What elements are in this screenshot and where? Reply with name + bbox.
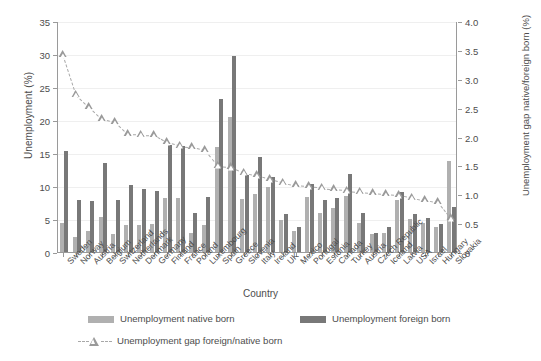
- bar-group: [331, 22, 340, 253]
- legend-label: Unemployment native born: [120, 313, 235, 324]
- y-axis-left-tick: [53, 154, 57, 155]
- y-axis-left-tick-label: 15: [39, 149, 50, 160]
- bar-group: [318, 22, 327, 253]
- bar-native-born: [228, 117, 232, 253]
- y-axis-right-tick-label: 1.0: [465, 190, 478, 201]
- y-axis-left-tick: [53, 55, 57, 56]
- y-axis-left-tick-label: 5: [45, 215, 50, 226]
- y-axis-right-tick-label: 1.5: [465, 161, 478, 172]
- y-axis-left-tick-label: 0: [45, 248, 50, 259]
- bar-group: [176, 22, 185, 253]
- bar-group: [292, 22, 301, 253]
- legend-label: Unemployment foreign born: [332, 313, 450, 324]
- y-axis-right-tick: [458, 51, 462, 52]
- bar-foreign-born: [348, 174, 352, 253]
- bar-group: [60, 22, 69, 253]
- y-axis-left-tick-label: 10: [39, 182, 50, 193]
- y-axis-left-title: Unemployment (%): [23, 26, 34, 206]
- y-axis-left-tick-label: 25: [39, 83, 50, 94]
- y-axis-right-tick-label: 3.5: [465, 45, 478, 56]
- y-axis-left-tick: [53, 88, 57, 89]
- y-axis-right-tick: [458, 138, 462, 139]
- bar-group: [137, 22, 146, 253]
- bar-group: [111, 22, 120, 253]
- y-axis-left-tick: [53, 121, 57, 122]
- y-axis-right-tick: [458, 166, 462, 167]
- bar-group: [447, 22, 456, 253]
- bar-foreign-born: [245, 175, 249, 253]
- y-axis-right-tick: [458, 195, 462, 196]
- legend-item: Unemployment gap foreign/native born: [78, 335, 282, 346]
- bar-group: [382, 22, 391, 253]
- y-axis-right-tick-label: 3.0: [465, 74, 478, 85]
- bar-group: [395, 22, 404, 253]
- y-axis-left-tick: [53, 253, 57, 254]
- y-axis-left: 05101520253035: [57, 22, 58, 253]
- bar-group: [240, 22, 249, 253]
- bar-native-born: [447, 161, 451, 253]
- bar-group: [163, 22, 172, 253]
- bar-foreign-born: [219, 99, 223, 253]
- bar-group: [279, 22, 288, 253]
- bar-group: [305, 22, 314, 253]
- bar-group: [344, 22, 353, 253]
- bar-group: [434, 22, 443, 253]
- bar-native-born: [215, 147, 219, 253]
- y-axis-right-title: Unemployment gap native/foreign born (%): [520, 0, 531, 241]
- chart-legend: Unemployment native bornUnemployment for…: [0, 305, 541, 361]
- x-axis-title: Country: [243, 288, 278, 299]
- bar-foreign-born: [103, 163, 107, 253]
- bar-group: [266, 22, 275, 253]
- bar-group: [86, 22, 95, 253]
- y-axis-left-tick-label: 30: [39, 50, 50, 61]
- bar-group: [357, 22, 366, 253]
- y-axis-left-tick: [53, 220, 57, 221]
- bar-native-born: [60, 223, 64, 253]
- bar-foreign-born: [232, 56, 236, 253]
- legend-swatch: [300, 316, 326, 323]
- y-axis-right-tick: [458, 80, 462, 81]
- bar-native-born: [305, 197, 309, 253]
- y-axis-left-tick: [53, 187, 57, 188]
- y-axis-left-tick-label: 35: [39, 17, 50, 28]
- legend-swatch: [88, 316, 114, 323]
- y-axis-right-tick-label: 2.5: [465, 103, 478, 114]
- bar-group: [370, 22, 379, 253]
- plot-area: [57, 22, 457, 253]
- y-axis-right-tick: [458, 22, 462, 23]
- bar-group: [253, 22, 262, 253]
- y-axis-right-tick-label: 2.0: [465, 132, 478, 143]
- bar-group: [99, 22, 108, 253]
- bar-group: [215, 22, 224, 253]
- chart-figure: Unemployment (%) Unemployment gap native…: [0, 0, 541, 361]
- bar-group: [124, 22, 133, 253]
- y-axis-left-tick: [53, 22, 57, 23]
- y-axis-right-tick: [458, 224, 462, 225]
- legend-item: Unemployment native born: [88, 313, 235, 324]
- bar-group: [202, 22, 211, 253]
- bar-group: [228, 22, 237, 253]
- y-axis-right-tick-label: 4.0: [465, 17, 478, 28]
- bar-foreign-born: [258, 157, 262, 253]
- bar-foreign-born: [297, 227, 301, 253]
- y-axis-left-tick-label: 20: [39, 116, 50, 127]
- legend-triangle-marker: [78, 337, 112, 346]
- x-axis-tick: [63, 253, 64, 257]
- bar-group: [189, 22, 198, 253]
- legend-label: Unemployment gap foreign/native born: [117, 335, 282, 346]
- y-axis-right-tick: [458, 109, 462, 110]
- bar-foreign-born: [64, 151, 68, 253]
- bar-group: [73, 22, 82, 253]
- bar-group: [150, 22, 159, 253]
- legend-item: Unemployment foreign born: [300, 313, 450, 324]
- bar-group: [421, 22, 430, 253]
- y-axis-right-tick-label: 0.5: [465, 219, 478, 230]
- y-axis-right: 00.51.01.52.02.53.03.54.0: [457, 22, 458, 253]
